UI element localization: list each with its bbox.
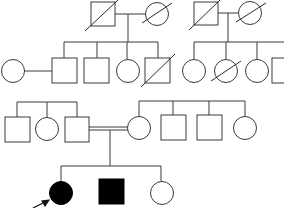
individual-III-5-male (161, 115, 186, 140)
individual-III-1-male (5, 117, 30, 142)
individual-IV-1-female-affected-proband (50, 182, 73, 205)
individual-III-2-female (36, 118, 59, 141)
generation-I (85, 0, 266, 42)
individual-II-6-female (183, 60, 206, 83)
pedigree-diagram (0, 0, 284, 208)
individual-IV-3-female (151, 182, 174, 205)
individual-II-9-male (272, 58, 284, 83)
individual-II-3-male (84, 58, 109, 83)
individual-II-8-female (246, 60, 269, 83)
generation-III (5, 101, 257, 166)
individual-II-1-female (2, 60, 25, 83)
individual-III-4-female (128, 117, 151, 140)
individual-II-2-male (52, 58, 77, 83)
proband-arrow-icon (33, 200, 49, 208)
generation-IV (33, 166, 174, 208)
individual-III-7-female (234, 117, 257, 140)
individual-III-6-male (197, 115, 222, 140)
individual-III-3-male (65, 117, 89, 142)
individual-IV-2-male-affected (99, 179, 124, 204)
individual-II-4-female (117, 60, 140, 83)
generation-II (2, 42, 285, 87)
individual-I-2-female-deceased (146, 3, 169, 26)
